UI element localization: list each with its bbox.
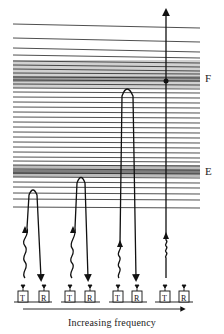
svg-text:R: R	[41, 294, 47, 303]
svg-text:T: T	[67, 294, 72, 303]
e-layer-label: E	[205, 165, 212, 177]
ionosphere-lines	[13, 24, 200, 208]
ionosphere-diagram: TR TR TR TR	[0, 0, 224, 334]
svg-text:T: T	[162, 294, 167, 303]
wave-path-1	[24, 190, 41, 278]
f-layer-label: F	[205, 72, 211, 84]
svg-text:T: T	[115, 294, 120, 303]
frequency-caption: Increasing frequency	[0, 317, 224, 328]
svg-text:R: R	[87, 294, 93, 303]
svg-text:R: R	[134, 294, 140, 303]
svg-text:T: T	[20, 294, 25, 303]
svg-text:R: R	[181, 294, 187, 303]
wave-paths	[24, 12, 167, 278]
